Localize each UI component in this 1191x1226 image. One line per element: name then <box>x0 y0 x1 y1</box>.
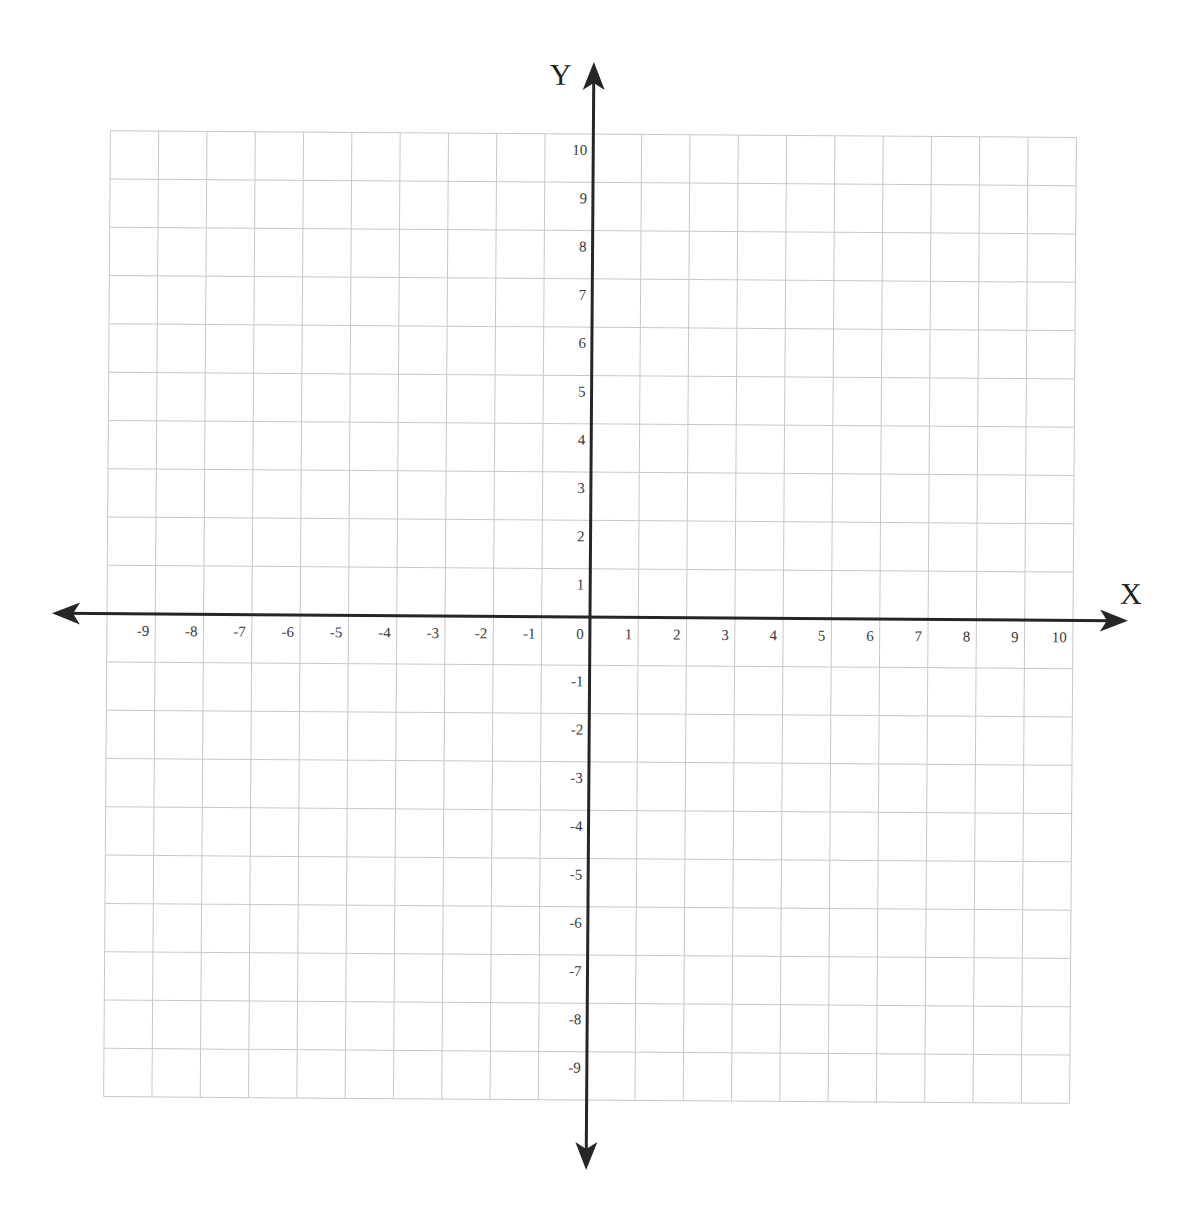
x-tick-label: 5 <box>818 628 826 644</box>
y-tick-labels: 10987654321-1-2-3-4-5-6-7-8-9 <box>566 142 588 1076</box>
y-tick-label: 3 <box>577 480 585 496</box>
y-tick-label: 6 <box>578 335 586 351</box>
x-tick-label: 2 <box>673 627 681 643</box>
y-tick-label: 2 <box>577 528 585 544</box>
x-tick-label: 9 <box>1011 629 1019 645</box>
y-tick-label: -9 <box>568 1060 581 1076</box>
x-tick-label: -7 <box>233 624 246 640</box>
y-tick-label: 9 <box>579 190 587 206</box>
x-tick-label: 4 <box>770 627 778 643</box>
x-tick-label: 0 <box>576 626 584 642</box>
y-tick-label: -6 <box>569 915 582 931</box>
x-tick-label: 10 <box>1052 629 1067 645</box>
x-tick-label: -4 <box>378 625 391 641</box>
x-tick-label: -6 <box>282 624 295 640</box>
x-tick-label: -1 <box>523 626 536 642</box>
y-tick-label: -7 <box>569 963 582 979</box>
x-tick-label: -8 <box>185 623 198 639</box>
x-tick-label: -9 <box>137 623 150 639</box>
x-tick-label: -2 <box>475 625 488 641</box>
x-tick-label: 1 <box>625 626 633 642</box>
x-tick-label: -3 <box>426 625 439 641</box>
y-tick-label: 10 <box>572 142 587 158</box>
y-tick-label: -1 <box>571 673 584 689</box>
y-tick-label: -2 <box>571 721 584 737</box>
y-tick-label: 8 <box>579 239 587 255</box>
x-axis-label: X <box>1120 577 1142 610</box>
y-tick-label: 1 <box>577 577 585 593</box>
coordinate-plane: -9-8-7-6-5-4-3-2-1012345678910 109876543… <box>0 0 1191 1226</box>
x-tick-label: 8 <box>963 629 971 645</box>
y-tick-label: 5 <box>578 383 586 399</box>
x-tick-label: 3 <box>721 627 729 643</box>
x-tick-label: 7 <box>914 628 922 644</box>
x-tick-label: -5 <box>330 624 343 640</box>
y-tick-label: -8 <box>569 1011 582 1027</box>
y-tick-label: -5 <box>570 866 583 882</box>
x-tick-label: 6 <box>866 628 874 644</box>
x-tick-labels: -9-8-7-6-5-4-3-2-1012345678910 <box>137 623 1067 645</box>
y-tick-label: 7 <box>579 287 587 303</box>
y-tick-label: -4 <box>570 818 583 834</box>
x-axis <box>62 613 1112 620</box>
y-axis-label: Y <box>550 58 572 91</box>
y-tick-label: 4 <box>578 432 586 448</box>
y-axis <box>586 75 594 1155</box>
y-tick-label: -3 <box>570 770 583 786</box>
